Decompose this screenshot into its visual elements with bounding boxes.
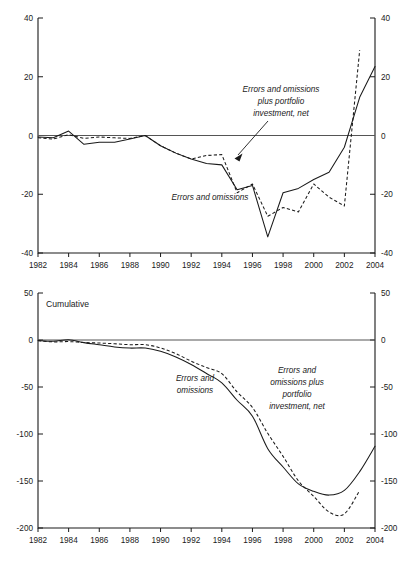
annual-ytick-left-20: 20: [24, 73, 34, 82]
annual-xtick-1992: 1992: [182, 261, 201, 270]
cumulative-xtick-1990: 1990: [151, 536, 170, 545]
cumulative-ytick-right-neg50: -50: [381, 383, 393, 392]
cumulative-ytick-right-neg200: -200: [381, 524, 398, 533]
cumulative-panel-title: Cumulative: [46, 299, 89, 309]
cumulative-left-ticks: [38, 293, 43, 528]
chart-panel-cumulative: 50 0 -50 -100 -150 -200 50 0 -50 -100 -1…: [0, 283, 410, 565]
annual-ytick-right-neg40: -40: [381, 249, 393, 258]
cumulative-ytick-left-neg50: -50: [21, 383, 33, 392]
annual-xtick-2004: 2004: [366, 261, 385, 270]
annual-xtick-1994: 1994: [213, 261, 232, 270]
annual-series-errors-omissions-plus-portfolio: [38, 50, 360, 216]
cumulative-ytick-right-0: 0: [381, 336, 386, 345]
cumulative-ytick-right-neg150: -150: [381, 477, 398, 486]
annual-ytick-right-40: 40: [381, 14, 391, 23]
annual-xtick-1998: 1998: [274, 261, 293, 270]
cumulative-xtick-1982: 1982: [29, 536, 48, 545]
annual-xtick-1996: 1996: [243, 261, 262, 270]
cumulative-annot-solid-line2: omissions: [177, 386, 213, 395]
annual-ytick-left-40: 40: [24, 14, 34, 23]
annual-xtick-1988: 1988: [121, 261, 140, 270]
cumulative-xtick-labels: 1982 1984 1986 1988 1990 1992 1994 1996 …: [29, 536, 385, 545]
cumulative-xtick-1996: 1996: [243, 536, 262, 545]
cumulative-annot-dashed-line1: Errors and: [278, 366, 317, 375]
annual-ytick-left-0: 0: [28, 132, 33, 141]
cumulative-ytick-left-neg100: -100: [17, 430, 34, 439]
cumulative-xtick-1992: 1992: [182, 536, 201, 545]
cumulative-annot-dashed-line4: investment, net: [269, 402, 325, 411]
cumulative-xtick-1986: 1986: [90, 536, 109, 545]
cumulative-xtick-2004: 2004: [366, 536, 385, 545]
annual-annot-line2: plus portfolio: [257, 97, 305, 106]
chart-panel-annual: 40 20 0 -20 -40 40 20 0 -20 -40 1982 198…: [0, 0, 410, 282]
annual-annot-line1: Errors and omissions: [243, 85, 320, 94]
cumulative-series-errors-omissions: [38, 340, 375, 495]
cumulative-xtick-2000: 2000: [305, 536, 324, 545]
annual-ytick-left-neg40: -40: [21, 249, 33, 258]
cumulative-ytick-left-0: 0: [28, 336, 33, 345]
annual-xtick-1990: 1990: [151, 261, 170, 270]
annual-bottom-ticks: [38, 253, 375, 257]
annual-xtick-labels: 1982 1984 1986 1988 1990 1992 1994 1996 …: [29, 261, 385, 270]
cumulative-xtick-2002: 2002: [335, 536, 354, 545]
annual-xtick-1984: 1984: [60, 261, 79, 270]
annual-xtick-2002: 2002: [335, 261, 354, 270]
annual-xtick-2000: 2000: [305, 261, 324, 270]
cumulative-xtick-1998: 1998: [274, 536, 293, 545]
cumulative-ytick-left-50: 50: [24, 289, 34, 298]
cumulative-right-ticks: [370, 293, 375, 528]
figure-container: 40 20 0 -20 -40 40 20 0 -20 -40 1982 198…: [0, 0, 410, 565]
annual-ytick-right-20: 20: [381, 73, 391, 82]
cumulative-annotation-solid: Errors and omissions: [176, 374, 215, 395]
annual-ytick-right-neg20: -20: [381, 190, 393, 199]
cumulative-xtick-1984: 1984: [60, 536, 79, 545]
cumulative-annot-dashed-line3: portfolio: [281, 390, 312, 399]
annual-annotation-dashed: Errors and omissions plus portfolio inve…: [235, 85, 320, 162]
annual-ytick-right-0: 0: [381, 132, 386, 141]
cumulative-annotation-dashed: Errors and omissions plus portfolio inve…: [269, 366, 325, 411]
cumulative-annot-dashed-line2: omissions plus: [270, 378, 324, 387]
cumulative-chart-svg: 50 0 -50 -100 -150 -200 50 0 -50 -100 -1…: [0, 283, 410, 565]
annual-annot-line3: investment, net: [253, 109, 309, 118]
annual-annot-solid: Errors and omissions: [172, 193, 249, 202]
cumulative-ytick-left-neg200: -200: [17, 524, 34, 533]
cumulative-xtick-1988: 1988: [121, 536, 140, 545]
annual-chart-svg: 40 20 0 -20 -40 40 20 0 -20 -40 1982 198…: [0, 0, 410, 282]
annual-xtick-1982: 1982: [29, 261, 48, 270]
cumulative-xtick-1994: 1994: [213, 536, 232, 545]
annual-xtick-1986: 1986: [90, 261, 109, 270]
cumulative-annot-solid-line1: Errors and: [176, 374, 215, 383]
cumulative-ytick-right-neg100: -100: [381, 430, 398, 439]
annual-series-errors-omissions: [38, 66, 375, 236]
cumulative-ytick-right-50: 50: [381, 289, 391, 298]
cumulative-ytick-left-neg150: -150: [17, 477, 34, 486]
annual-ytick-left-neg20: -20: [21, 190, 33, 199]
cumulative-bottom-ticks: [38, 528, 375, 532]
